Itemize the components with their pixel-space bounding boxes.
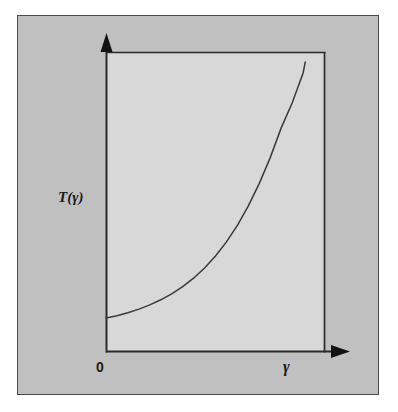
x-axis-label: γ [283, 359, 290, 375]
plot-area-background [106, 52, 325, 352]
figure-container: T(γ) 0 γ [0, 0, 398, 412]
y-axis-label: T(γ) [58, 190, 83, 205]
arrow-up-icon [101, 33, 113, 52]
arrow-right-icon [331, 345, 350, 358]
plot-svg [0, 0, 398, 412]
origin-label: 0 [96, 360, 104, 374]
